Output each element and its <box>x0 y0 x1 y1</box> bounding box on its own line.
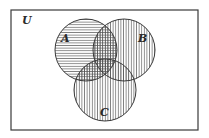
set-c-label: C <box>100 106 109 119</box>
set-a-label: A <box>60 32 70 45</box>
venn-diagram: U A B C <box>0 0 209 138</box>
set-b-label: B <box>137 32 147 45</box>
universe-label: U <box>22 14 33 27</box>
